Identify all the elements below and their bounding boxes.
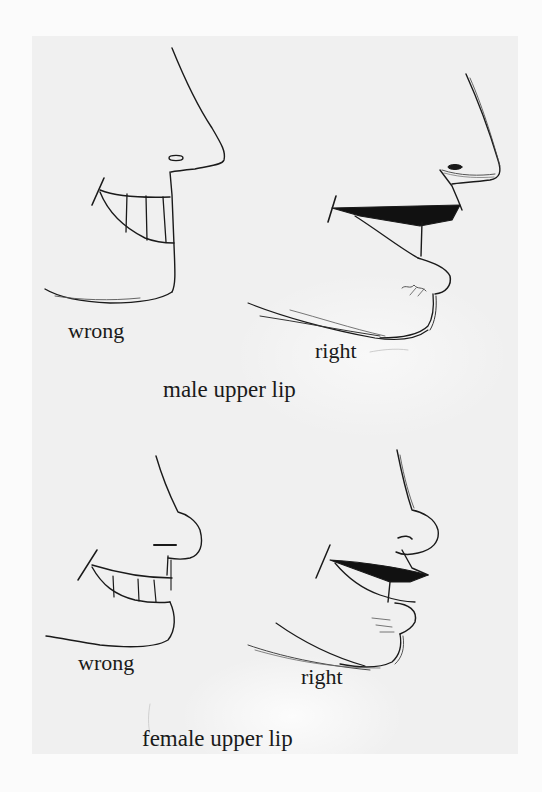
figure-label-wrong-female: wrong [78, 652, 134, 674]
figure-label-right-male: right [315, 340, 357, 362]
face-profile-wrong-male-illustration [45, 48, 225, 303]
face-profile-wrong-female-illustration [46, 456, 202, 647]
section-caption-male: male upper lip [163, 378, 296, 401]
section-caption-female: female upper lip [142, 727, 293, 750]
face-profile-right-male-illustration [248, 74, 500, 339]
figure-label-right-female: right [301, 666, 343, 688]
figure-label-wrong-male: wrong [68, 320, 124, 342]
face-profile-right-female-illustration [248, 450, 438, 670]
pencil-mark [370, 349, 408, 352]
